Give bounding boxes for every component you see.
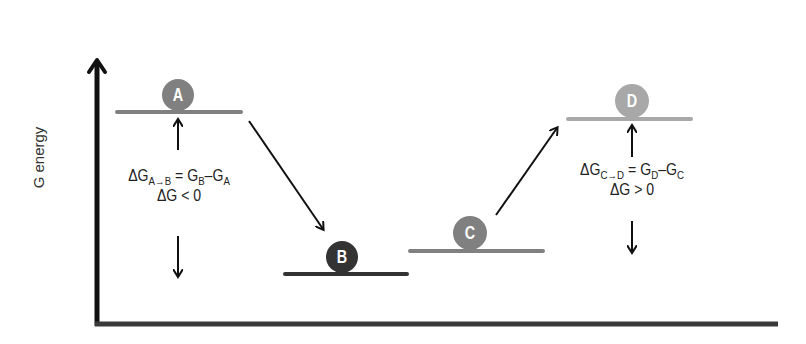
left-condition: ΔG < 0 <box>115 186 243 206</box>
state-b-label: B <box>329 247 355 267</box>
transition-c-to-d-arrow <box>496 128 557 215</box>
y-axis-label: G energy <box>30 118 47 198</box>
right-equation: ΔGC→D = GD–GC <box>568 160 696 180</box>
state-d-label: D <box>619 91 645 111</box>
state-c-label: C <box>457 223 483 243</box>
right-condition: ΔG > 0 <box>568 180 696 200</box>
free-energy-diagram: A B C D G energy ΔGA→B = GB–GA ΔG < 0 ΔG… <box>0 0 806 344</box>
transition-a-to-b-arrow <box>249 121 323 229</box>
state-a-label: A <box>165 85 191 105</box>
right-delta-g-annotation: ΔGC→D = GD–GC ΔG > 0 <box>568 160 696 200</box>
left-equation: ΔGA→B = GB–GA <box>115 166 243 186</box>
left-delta-g-annotation: ΔGA→B = GB–GA ΔG < 0 <box>115 166 243 206</box>
